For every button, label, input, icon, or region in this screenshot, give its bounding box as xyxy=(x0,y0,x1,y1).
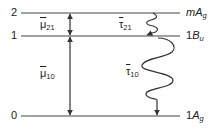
level-1-state-label: 1Bu xyxy=(186,30,204,44)
mu-subscript: 10 xyxy=(46,72,54,81)
level-2-index-label: 2 xyxy=(11,7,17,18)
level-1-index-label: 1 xyxy=(11,30,17,41)
tau10-label: τ10 xyxy=(126,66,139,80)
mu-subscript: 21 xyxy=(46,23,54,32)
level-0-state-label: 1Ag xyxy=(186,110,204,124)
mu10-label: μ10 xyxy=(40,68,55,82)
tau21-label: τ21 xyxy=(119,19,132,33)
state-subscript: g xyxy=(203,11,207,20)
tau10-wavy-arrow xyxy=(142,38,174,115)
tau-subscript: 21 xyxy=(123,23,131,32)
state-symbol: A xyxy=(195,6,202,18)
level-2-state-label: mAg xyxy=(186,7,207,21)
tau21-wavy-arrow xyxy=(147,13,158,35)
state-subscript: g xyxy=(199,114,203,123)
state-subscript: u xyxy=(199,34,203,43)
tau-subscript: 10 xyxy=(130,70,138,79)
level-0-index-label: 0 xyxy=(11,110,17,121)
mu21-label: μ21 xyxy=(40,19,55,33)
state-prefix: m xyxy=(186,6,195,18)
